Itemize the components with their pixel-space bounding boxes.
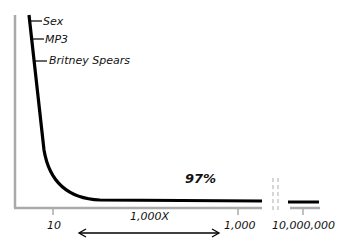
label-britney: Britney Spears: [49, 54, 130, 67]
long-tail-chart: Sex MP3 Britney Spears 10 1,000 10,000,0…: [0, 0, 342, 242]
tick-label-10m: 10,000,000: [272, 219, 335, 232]
tick-label-10: 10: [47, 219, 61, 232]
tick-label-1000: 1,000: [224, 219, 256, 232]
label-mp3: MP3: [45, 33, 68, 46]
arrow-label: 1,000X: [130, 210, 169, 223]
label-sex: Sex: [43, 15, 64, 28]
percent-label: 97%: [185, 171, 216, 186]
